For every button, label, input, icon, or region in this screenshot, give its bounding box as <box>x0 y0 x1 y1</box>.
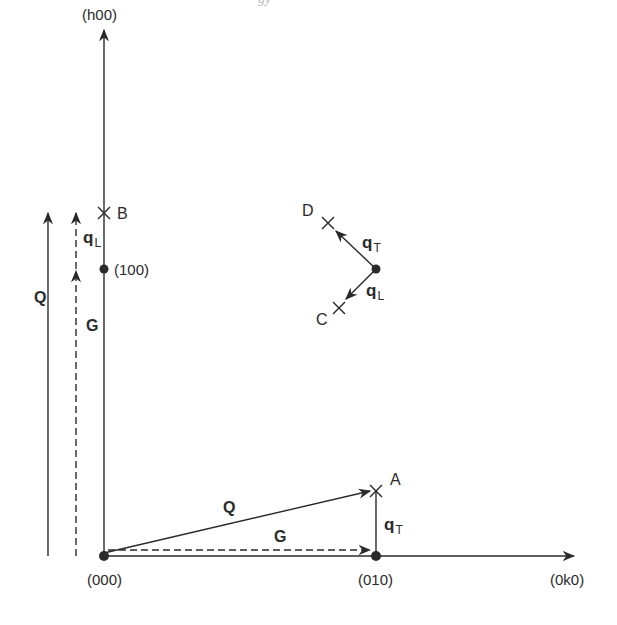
cross-marker-C <box>333 302 345 314</box>
label-C: C <box>316 311 328 328</box>
0k0-axis-label: (0k0) <box>550 571 584 588</box>
h00-axis-label: (h00) <box>82 6 117 23</box>
G-label-longitudinal: G <box>86 317 98 334</box>
label-D: D <box>302 202 314 219</box>
cross-marker-D <box>322 217 334 229</box>
qL-label-general: qL <box>366 281 384 303</box>
lattice-point-100 <box>100 265 109 274</box>
label-000: (000) <box>87 571 122 588</box>
qT-label-general: qT <box>362 233 381 255</box>
label-100: (100) <box>114 261 149 278</box>
qT-label-transverse: qT <box>384 515 403 537</box>
G-label-transverse: G <box>274 528 286 545</box>
label-A: A <box>390 471 401 488</box>
reciprocal-lattice-diagram: (h00) (0k0) (000) (010) (100) A B C D Q … <box>0 0 617 625</box>
Q-label-transverse: Q <box>223 499 235 516</box>
Q-label-longitudinal: Q <box>34 289 46 306</box>
Q-vector-transverse <box>104 491 370 553</box>
qL-label-longitudinal: qL <box>83 228 101 250</box>
label-010: (010) <box>358 571 393 588</box>
label-B: B <box>117 205 128 222</box>
